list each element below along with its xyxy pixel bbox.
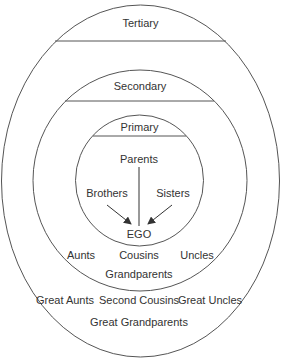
great-grandparents-label: Great Grandparents <box>90 316 188 328</box>
brothers-arrow-icon <box>107 205 131 224</box>
sisters-label: Sisters <box>156 187 190 199</box>
tertiary-label: Tertiary <box>122 17 159 29</box>
tertiary-members: Great Aunts Second Cousins Great Uncles … <box>36 294 243 328</box>
parents-label: Parents <box>120 153 158 165</box>
second-cousins-label: Second Cousins <box>99 294 180 306</box>
primary-members: Parents Brothers Sisters EGO <box>86 153 190 240</box>
secondary-members: Aunts Cousins Uncles Grandparents <box>67 249 214 280</box>
secondary-label: Secondary <box>114 80 167 92</box>
grandparents-label: Grandparents <box>105 268 173 280</box>
great-uncles-label: Great Uncles <box>178 294 243 306</box>
uncles-label: Uncles <box>180 249 214 261</box>
ego-label: EGO <box>127 228 152 240</box>
brothers-label: Brothers <box>86 187 128 199</box>
primary-label: Primary <box>121 121 159 133</box>
great-aunts-label: Great Aunts <box>36 294 95 306</box>
sisters-arrow-icon <box>148 205 172 224</box>
aunts-label: Aunts <box>67 249 96 261</box>
kinship-diagram: Tertiary Secondary Primary Parents Broth… <box>0 0 281 359</box>
cousins-label: Cousins <box>119 249 159 261</box>
